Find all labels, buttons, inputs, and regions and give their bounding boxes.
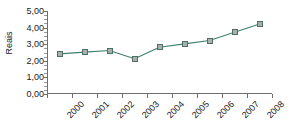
- y-axis-tick-labels: 5,004,003,002,001,000,00: [18, 8, 44, 96]
- x-tick-label: 2003: [139, 99, 160, 120]
- y-tick-label: 2,00: [18, 57, 44, 66]
- x-axis-tick: [47, 94, 48, 98]
- x-axis-tick: [222, 94, 223, 98]
- data-point-marker: [257, 21, 263, 27]
- data-point-marker: [57, 51, 63, 57]
- x-axis-tick: [247, 94, 248, 98]
- data-point-marker: [232, 29, 238, 35]
- x-tick-label: 2005: [189, 99, 210, 120]
- x-axis-tick: [197, 94, 198, 98]
- y-tick-label: 4,00: [18, 24, 44, 33]
- y-tick-label: 3,00: [18, 40, 44, 49]
- x-axis-tick: [97, 94, 98, 98]
- x-axis-tick: [172, 94, 173, 98]
- x-tick-label: 2004: [164, 99, 185, 120]
- x-axis-tick: [72, 94, 73, 98]
- x-axis-tick: [147, 94, 148, 98]
- x-tick-label: 2007: [239, 99, 260, 120]
- y-axis-title: Reais: [4, 20, 14, 66]
- x-tick-label: 2000: [64, 99, 85, 120]
- data-point-marker: [207, 38, 213, 44]
- y-tick-label: 1,00: [18, 73, 44, 82]
- data-point-marker: [157, 44, 163, 50]
- x-tick-label: 2008: [264, 99, 285, 120]
- x-tick-label: 2006: [214, 99, 235, 120]
- plot-area: [47, 11, 272, 94]
- x-tick-label: 2002: [114, 99, 135, 120]
- y-tick-label: 0,00: [18, 90, 44, 99]
- x-axis-tick: [122, 94, 123, 98]
- data-point-marker: [132, 56, 138, 62]
- data-point-marker: [182, 41, 188, 47]
- data-point-marker: [107, 48, 113, 54]
- data-point-marker: [82, 49, 88, 55]
- y-tick-label: 5,00: [18, 7, 44, 16]
- x-axis-tick: [272, 94, 273, 98]
- x-tick-label: 2001: [89, 99, 110, 120]
- line-chart: Reais 5,004,003,002,001,000,00 200020012…: [0, 0, 292, 127]
